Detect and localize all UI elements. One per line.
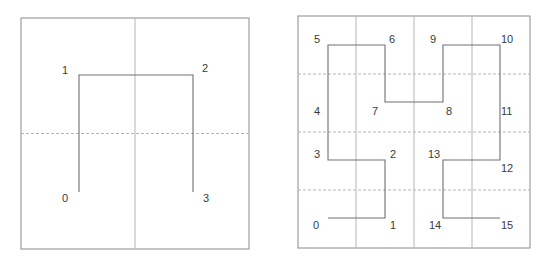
vertex-label: 1: [62, 64, 68, 76]
hilbert-curve-diagram: 0123 0123456789101112131415: [0, 0, 549, 264]
order-2-panel: 0123456789101112131415: [298, 16, 530, 248]
vertex-label: 8: [446, 105, 452, 117]
vertex-label: 10: [501, 33, 513, 45]
vertex-label: 3: [314, 148, 320, 160]
vertex-label: 4: [314, 105, 320, 117]
order-1-panel: 0123: [21, 18, 249, 249]
vertex-label: 5: [314, 33, 320, 45]
vertex-label: 2: [202, 62, 208, 74]
vertex-label: 0: [62, 192, 68, 204]
vertex-label: 11: [501, 105, 512, 117]
vertex-label: 1: [390, 219, 396, 231]
vertex-label: 13: [428, 148, 440, 160]
vertex-label: 12: [501, 162, 513, 174]
vertex-label: 9: [430, 33, 436, 45]
vertex-label: 2: [390, 148, 396, 160]
vertex-label: 15: [501, 219, 513, 231]
vertex-label: 0: [313, 219, 319, 231]
vertex-label: 3: [203, 192, 209, 204]
vertex-label: 14: [429, 219, 441, 231]
vertex-label: 6: [389, 33, 395, 45]
vertex-label: 7: [372, 105, 378, 117]
